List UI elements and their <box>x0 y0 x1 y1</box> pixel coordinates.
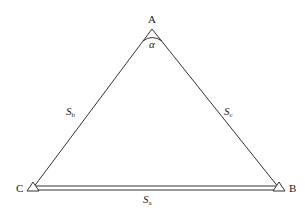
side-b-line <box>33 29 152 188</box>
side-c-line <box>152 29 279 188</box>
side-a-double-line <box>36 186 276 190</box>
angle-alpha-label: α <box>149 38 155 50</box>
side-a-label: Sa <box>143 193 153 207</box>
side-b-label: Sb <box>66 105 76 119</box>
triangle-diagram: A B C α Sb Sc Sa <box>0 0 305 218</box>
vertex-b-label: B <box>289 182 296 194</box>
side-c-label: Sc <box>224 105 233 119</box>
vertex-a-label: A <box>148 13 156 25</box>
vertex-c-label: C <box>16 182 23 194</box>
